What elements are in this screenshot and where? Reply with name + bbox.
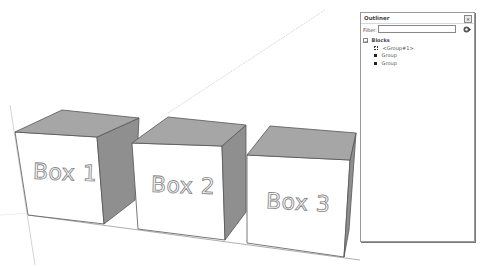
tree-item-label: <Group#1>: [383, 45, 414, 51]
filter-input[interactable]: [378, 25, 456, 33]
group-icon: [374, 62, 377, 65]
tree-item-group[interactable]: Group: [363, 60, 472, 68]
collapse-icon[interactable]: −: [363, 38, 368, 43]
outliner-tree: − Blocks <Group#1> Group Group: [363, 37, 472, 67]
close-icon[interactable]: ×: [464, 15, 472, 23]
tree-item-group[interactable]: Group: [363, 52, 472, 60]
box-3-label: Box 3: [265, 188, 331, 216]
tree-item-label: Group: [382, 52, 397, 58]
outliner-titlebar[interactable]: Outliner ×: [361, 13, 474, 24]
tree-root-label: Blocks: [372, 37, 390, 43]
box-2-label: Box 2: [151, 172, 216, 199]
filter-label: Filter:: [363, 27, 377, 33]
filter-options-icon[interactable]: [462, 25, 471, 34]
group-icon: [374, 54, 377, 57]
axis-line-left: [0, 213, 30, 215]
box-1-label: Box 1: [33, 159, 98, 186]
tree-item-label: Group: [382, 60, 397, 66]
red-axis-guide-line: [168, 10, 325, 113]
tree-item-group1[interactable]: <Group#1>: [363, 45, 472, 53]
outliner-panel: Outliner × Filter: − Blocks <Group#1> Gr…: [360, 12, 475, 242]
group-dotted-icon: [374, 46, 378, 50]
outliner-title: Outliner: [364, 15, 389, 21]
tree-root-blocks[interactable]: − Blocks: [363, 37, 472, 45]
